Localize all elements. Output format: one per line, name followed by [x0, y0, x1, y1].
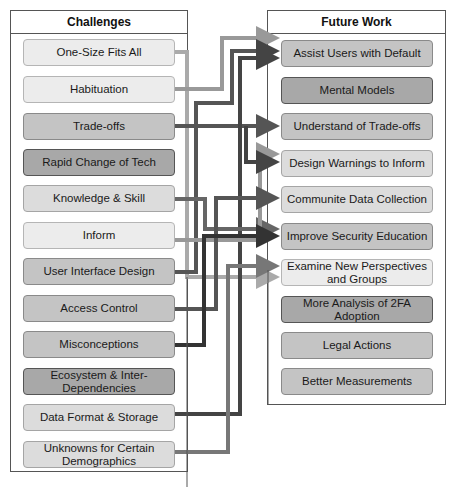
challenge-label: Ecosystem & Inter-Dependencies: [28, 369, 170, 395]
challenge-label: Rapid Change of Tech: [42, 156, 156, 169]
challenge-misconceptions[interactable]: Misconceptions: [23, 331, 175, 358]
future-label: Improve Security Education: [287, 230, 428, 243]
challenge-label: Trade-offs: [73, 120, 125, 133]
challenge-ecosystem[interactable]: Ecosystem & Inter-Dependencies: [23, 368, 175, 395]
challenge-trade-offs[interactable]: Trade-offs: [23, 113, 175, 140]
future-communite-data-collection[interactable]: Communite Data Collection: [281, 186, 433, 213]
future-label: Legal Actions: [323, 339, 391, 352]
future-examine-new-perspectives[interactable]: Examine New Perspectives and Groups: [281, 259, 433, 286]
future-label: More Analysis of 2FA Adoption: [286, 297, 428, 323]
challenge-knowledge-skill[interactable]: Knowledge & Skill: [23, 185, 175, 212]
challenge-access-control[interactable]: Access Control: [23, 295, 175, 322]
future-understand-trade-offs[interactable]: Understand of Trade-offs: [281, 113, 433, 140]
future-label: Design Warnings to Inform: [289, 157, 425, 170]
challenge-unknowns-demographics[interactable]: Unknowns for Certain Demographics: [23, 441, 175, 468]
future-assist-users-default[interactable]: Assist Users with Default: [281, 40, 433, 67]
challenge-user-interface-design[interactable]: User Interface Design: [23, 258, 175, 285]
future-label: Communite Data Collection: [287, 193, 427, 206]
challenge-label: Inform: [83, 229, 116, 242]
future-label: Understand of Trade-offs: [294, 120, 421, 133]
future-label: Assist Users with Default: [293, 47, 420, 60]
future-more-analysis-2fa[interactable]: More Analysis of 2FA Adoption: [281, 296, 433, 323]
challenge-rapid-change-of-tech[interactable]: Rapid Change of Tech: [23, 149, 175, 176]
challenge-label: Data Format & Storage: [40, 411, 158, 424]
future-label: Mental Models: [320, 84, 395, 97]
future-better-measurements[interactable]: Better Measurements: [281, 368, 433, 395]
challenge-label: One-Size Fits All: [57, 46, 142, 59]
future-improve-security-education[interactable]: Improve Security Education: [281, 223, 433, 250]
challenge-label: Knowledge & Skill: [53, 192, 145, 205]
future-legal-actions[interactable]: Legal Actions: [281, 332, 433, 359]
challenge-label: Unknowns for Certain Demographics: [28, 442, 170, 468]
challenge-habituation[interactable]: Habituation: [23, 76, 175, 103]
challenge-label: Access Control: [60, 302, 137, 315]
challenge-label: Misconceptions: [59, 338, 138, 351]
challenge-label: Habituation: [70, 83, 128, 96]
challenge-label: User Interface Design: [43, 265, 154, 278]
future-design-warnings[interactable]: Design Warnings to Inform: [281, 150, 433, 177]
future-mental-models[interactable]: Mental Models: [281, 77, 433, 104]
challenge-inform[interactable]: Inform: [23, 222, 175, 249]
challenge-data-format-storage[interactable]: Data Format & Storage: [23, 404, 175, 431]
future-label: Better Measurements: [302, 375, 412, 388]
challenge-one-size-fits-all[interactable]: One-Size Fits All: [23, 39, 175, 66]
future-label: Examine New Perspectives and Groups: [286, 260, 428, 286]
